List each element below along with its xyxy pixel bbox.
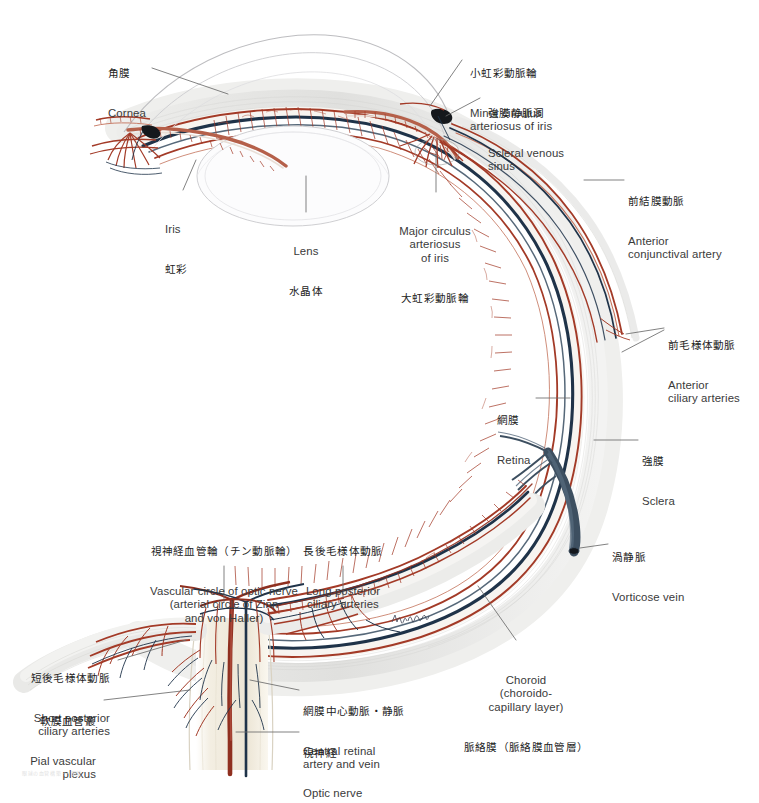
label-optic-nerve-en: Optic nerve (303, 787, 362, 800)
leader-minor-circulus (430, 60, 462, 106)
label-lens: Lens 水晶体 (276, 218, 336, 325)
label-pial-vascular-plexus-en: Pial vascular plexus (0, 755, 96, 782)
label-long-posterior-ciliary-arteries: 長後毛様体動脈 Long posterior ciliary arteries (289, 518, 397, 638)
label-cornea: 角膜 Cornea (108, 40, 146, 147)
label-anterior-ciliary-arteries: 前毛様体動脈 Anterior ciliary arteries (668, 312, 740, 432)
label-major-circulus-ja: 大虹彩動脈輪 (382, 292, 488, 305)
label-iris-ja: 虹彩 (165, 263, 188, 276)
label-anterior-conjunctival-artery: 前結膜動脈 Anterior conjunctival artery (628, 168, 722, 288)
label-optic-nerve: 視神経 Optic nerve (303, 720, 362, 803)
label-vorticose-vein-en: Vorticose vein (612, 591, 684, 604)
label-choroid-en: Choroid (choroido- capillary layer) (452, 674, 600, 714)
label-retina-en: Retina (497, 454, 531, 467)
label-vorticose-vein-ja: 渦静脈 (612, 551, 684, 564)
label-choroid: Choroid (choroido- capillary layer) 脈絡膜（… (452, 647, 600, 781)
label-scleral-venous-sinus: 強膜静脈洞 Scleral venous sinus (488, 80, 564, 200)
label-choroid-ja: 脈絡膜（脈絡膜血管層） (452, 741, 600, 754)
label-lens-ja: 水晶体 (276, 285, 336, 298)
label-pial-vascular-plexus-ja: 軟膜血管叢 (0, 715, 96, 728)
footer-mark: 眼球の血管構築 — 図版 (22, 770, 82, 776)
label-retina: 網膜 Retina (497, 387, 531, 494)
label-central-retinal-ja: 網膜中心動脈・静脈 (303, 705, 405, 718)
label-scleral-venous-sinus-en: Scleral venous sinus (488, 147, 564, 174)
label-long-posterior-ciliary-ja: 長後毛様体動脈 (289, 545, 397, 558)
label-sclera: 強膜 Sclera (642, 428, 675, 535)
label-cornea-ja: 角膜 (108, 67, 146, 80)
label-long-posterior-ciliary-en: Long posterior ciliary arteries (289, 585, 397, 612)
label-optic-nerve-ja: 視神経 (303, 747, 362, 760)
label-anterior-conjunctival-artery-ja: 前結膜動脈 (628, 195, 722, 208)
label-iris-en: Iris (165, 223, 188, 236)
label-pial-vascular-plexus: 軟膜血管叢 Pial vascular plexus (0, 688, 96, 803)
label-retina-ja: 網膜 (497, 414, 531, 427)
label-scleral-venous-sinus-ja: 強膜静脈洞 (488, 107, 564, 120)
label-sclera-en: Sclera (642, 495, 675, 508)
label-short-posterior-ciliary-ja: 短後毛様体動脈 (0, 672, 110, 685)
label-major-circulus-arteriosus-of-iris: Major circulus arteriosus of iris 大虹彩動脈輪 (382, 198, 488, 332)
label-minor-circulus-ja: 小虹彩動脈輪 (470, 67, 552, 80)
label-anterior-ciliary-arteries-ja: 前毛様体動脈 (668, 339, 740, 352)
label-anterior-ciliary-arteries-en: Anterior ciliary arteries (668, 379, 740, 406)
label-cornea-en: Cornea (108, 107, 146, 120)
label-iris: Iris 虹彩 (165, 196, 188, 303)
label-lens-en: Lens (276, 245, 336, 258)
label-vorticose-vein: 渦静脈 Vorticose vein (612, 524, 684, 631)
leader-iris (183, 160, 196, 190)
label-anterior-conjunctival-artery-en: Anterior conjunctival artery (628, 235, 722, 262)
label-major-circulus-en: Major circulus arteriosus of iris (382, 225, 488, 265)
label-sclera-ja: 強膜 (642, 455, 675, 468)
